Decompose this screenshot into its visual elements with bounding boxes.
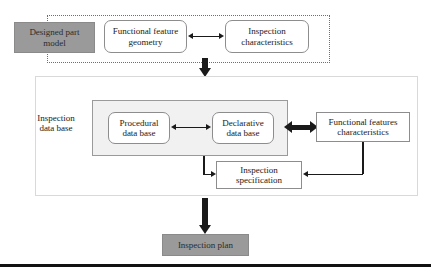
procedural-declarative-arrowhead-left [171,124,176,130]
geometry-characteristics-arrowhead-right [219,33,224,39]
inspection-characteristics-box[interactable]: Inspection characteristics [225,20,309,53]
functional-to-specification-vertical-segment [362,142,364,174]
declarative-data-base-box[interactable]: Declarative data base [212,112,274,144]
inspection-specification-box[interactable]: Inspection specification [216,161,302,189]
functional-feature-geometry-box[interactable]: Functional feature geometry [104,20,187,53]
database-to-specification-arrowhead [211,171,216,177]
database-to-plan-arrowhead [199,225,211,234]
inspection-planning-diagram: Designed part model Functional feature g… [0,0,431,273]
declarative-functional-arrowhead-left [284,121,292,133]
procedural-data-base-box[interactable]: Procedural data base [108,112,170,144]
bottom-divider-rule [0,264,431,267]
inspection-data-base-label: Inspection data base [24,113,88,134]
geometry-characteristics-arrowhead-left [188,33,193,39]
designed-part-model-box[interactable]: Designed part model [14,22,95,53]
functional-to-specification-arrowhead [303,171,308,177]
inspection-plan-box[interactable]: Inspection plan [162,234,249,256]
declarative-functional-bold-connector-line [291,125,311,130]
functional-to-specification-horizontal-segment [308,174,363,176]
geometry-characteristics-connector-line [192,36,220,37]
functional-features-characteristics-box[interactable]: Functional features characteristics [316,112,410,142]
database-to-specification-vertical-segment [203,156,205,175]
procedural-declarative-arrowhead-right [206,124,211,130]
database-to-plan-arrow-shaft [202,198,208,226]
procedural-declarative-connector-line [175,127,207,128]
